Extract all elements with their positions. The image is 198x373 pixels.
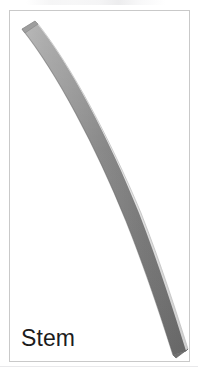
page-bottom-edge: [0, 366, 198, 367]
stem-inner-edge: [22, 29, 173, 355]
stem-caption-label: Stem: [21, 327, 75, 350]
stem-figure-card: Stem: [9, 10, 190, 362]
clipped-text-strip: [26, 0, 166, 5]
page-root: Stem: [0, 0, 198, 373]
curved-stem-illustration: [10, 11, 191, 363]
stem-shading-overlay: [22, 21, 186, 355]
